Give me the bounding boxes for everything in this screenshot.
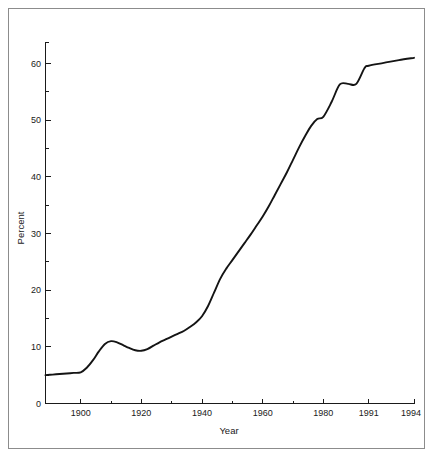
y-axis-title: Percent [15, 211, 26, 244]
y-tick-label: 20 [31, 285, 41, 295]
x-tick-label: 1994 [401, 408, 421, 418]
y-axis-major-ticks [46, 64, 51, 404]
x-axis-major-ticks [81, 399, 414, 404]
data-series-line [46, 58, 415, 375]
x-tick-label: 1920 [131, 408, 151, 418]
x-tick-label: 1991 [359, 408, 379, 418]
y-tick-label: 50 [31, 115, 41, 125]
x-tick-label: 1980 [313, 408, 333, 418]
x-tick-label: 1900 [71, 408, 91, 418]
y-tick-label: 30 [31, 229, 41, 239]
line-chart: 0 10 20 30 40 50 60 1900 192 [0, 0, 433, 458]
x-axis-tick-labels: 1900 1920 1940 1960 1980 1991 1994 [71, 408, 421, 418]
x-tick-label: 1940 [192, 408, 212, 418]
y-axis-tick-labels: 0 10 20 30 40 50 60 [31, 59, 41, 409]
y-tick-label: 40 [31, 172, 41, 182]
y-tick-label: 10 [31, 342, 41, 352]
x-axis-title: Year [219, 425, 238, 436]
x-tick-label: 1960 [253, 408, 273, 418]
y-tick-label: 60 [31, 59, 41, 69]
figure-container: 0 10 20 30 40 50 60 1900 192 [0, 0, 433, 458]
y-tick-label: 0 [36, 399, 41, 409]
